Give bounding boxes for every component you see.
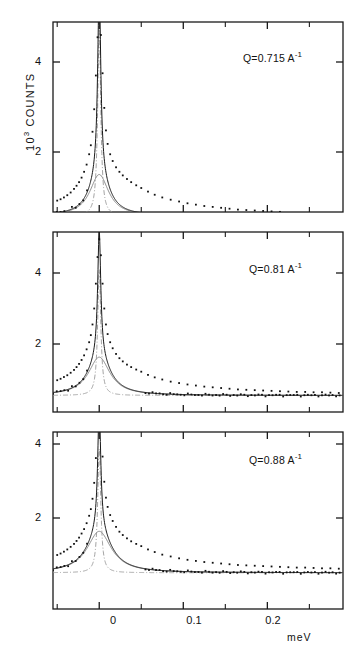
elastic-component-curve [53, 449, 343, 573]
data-points [52, 238, 340, 397]
panel-3-plot [52, 407, 343, 609]
quasielastic-component-curve [53, 175, 343, 216]
total-fit-curve [53, 231, 343, 395]
panel-2-plot [52, 231, 343, 412]
quasielastic-component-curve [53, 357, 343, 395]
qens-figure: 103 COUNTS Q=0.715 A-1 Q=0.81 A-1 Q=0.88… [0, 0, 360, 654]
elastic-component-curve [53, 270, 343, 396]
panel-1-plot [53, 0, 343, 216]
plot-canvas [0, 0, 360, 654]
total-fit-curve [53, 0, 343, 216]
quasielastic-component-curve [53, 531, 343, 572]
